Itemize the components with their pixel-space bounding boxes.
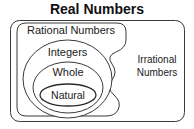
irrational-numbers-label-line1: Irrational <box>128 53 186 66</box>
real-numbers-venn-diagram: Real Numbers Rational Numbers Integers W… <box>0 0 194 129</box>
irrational-numbers-label: Irrational Numbers <box>128 53 186 79</box>
integers-label: Integers <box>23 46 112 59</box>
natural-label: Natural <box>40 89 96 102</box>
rational-numbers-label: Rational Numbers <box>17 24 125 37</box>
irrational-numbers-label-line2: Numbers <box>128 66 186 79</box>
whole-label: Whole <box>33 66 103 79</box>
